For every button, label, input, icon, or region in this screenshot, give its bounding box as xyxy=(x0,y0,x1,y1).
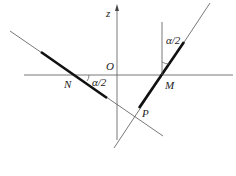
point-p-label: P xyxy=(141,107,149,119)
geometry-diagram: z O N α/2 α/2 M P xyxy=(0,0,236,176)
angle-arc-n xyxy=(87,75,89,81)
angle-n-label: α/2 xyxy=(92,76,107,88)
origin-label: O xyxy=(106,60,114,72)
point-m-label: M xyxy=(164,79,175,91)
z-axis-arrow-icon xyxy=(115,4,119,11)
point-n-label: N xyxy=(63,78,72,90)
angle-arc-m xyxy=(162,62,169,64)
z-axis-label: z xyxy=(105,7,111,19)
angle-m-label: α/2 xyxy=(166,34,181,46)
